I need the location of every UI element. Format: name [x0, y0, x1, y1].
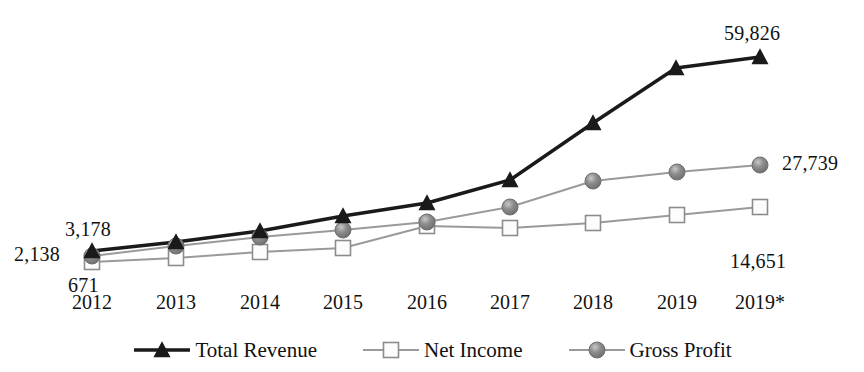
- legend-label: Net Income: [424, 338, 523, 363]
- marker-circle: [585, 173, 601, 189]
- x-tick-2019star: 2019*: [735, 291, 785, 314]
- x-tick-2017: 2017: [490, 291, 530, 314]
- x-tick-2014: 2014: [240, 291, 280, 314]
- legend-item-net-income[interactable]: Net Income: [361, 338, 523, 363]
- series-gross-profit: [92, 165, 760, 256]
- marker-circle: [335, 222, 351, 238]
- legend-label: Gross Profit: [630, 338, 732, 363]
- legend-swatch-triangle-icon: [132, 339, 192, 361]
- x-tick-2013: 2013: [156, 291, 196, 314]
- legend-label: Total Revenue: [195, 338, 317, 363]
- value-label: 2,138: [14, 243, 60, 266]
- series-line: [92, 165, 760, 256]
- x-tick-2015: 2015: [323, 291, 363, 314]
- marker-circle: [752, 157, 768, 173]
- marker-square: [670, 208, 685, 223]
- marker-square: [753, 200, 768, 215]
- value-label: 14,651: [730, 250, 786, 273]
- series-layer: [84, 50, 768, 270]
- x-tick-2016: 2016: [407, 291, 447, 314]
- line-chart: 3,1782,13867159,82627,73914,651 20122013…: [0, 0, 864, 372]
- marker-circle: [589, 342, 605, 358]
- marker-circle: [502, 199, 518, 215]
- chart-legend: Total RevenueNet IncomeGross Profit: [0, 328, 864, 372]
- marker-square: [586, 216, 601, 231]
- value-label: 59,826: [724, 22, 780, 45]
- x-tick-2012: 2012: [72, 291, 112, 314]
- legend-swatch-square-icon: [361, 339, 421, 361]
- marker-square: [383, 343, 398, 358]
- marker-square: [503, 221, 518, 236]
- x-tick-2019: 2019: [657, 291, 697, 314]
- marker-square: [336, 241, 351, 256]
- marker-square: [253, 245, 268, 260]
- x-tick-2018: 2018: [573, 291, 613, 314]
- marker-circle: [669, 164, 685, 180]
- value-label: 3,178: [65, 218, 111, 241]
- value-label: 27,739: [782, 152, 838, 175]
- chart-plot-area: [0, 0, 864, 372]
- legend-swatch-circle-icon: [567, 339, 627, 361]
- legend-item-total-revenue[interactable]: Total Revenue: [132, 338, 317, 363]
- marker-circle: [419, 214, 435, 230]
- legend-item-gross-profit[interactable]: Gross Profit: [567, 338, 732, 363]
